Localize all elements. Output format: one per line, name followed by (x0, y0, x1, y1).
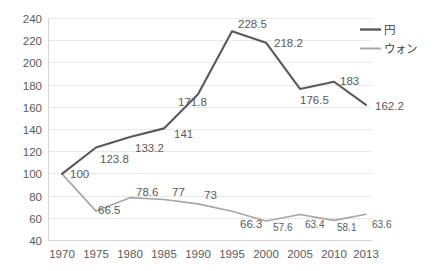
x-tick-1995: 1995 (219, 248, 245, 260)
chart-canvas: 240 220 200 180 160 140 120 100 80 60 40… (0, 0, 438, 271)
x-tick-1990: 1990 (185, 248, 211, 260)
data-label-won-2000: 57.6 (273, 222, 293, 233)
data-label-yen-1995: 228.5 (238, 18, 267, 30)
y-tick-60: 60 (29, 213, 42, 225)
x-tick-2010: 2010 (321, 248, 347, 260)
data-label-won-1985: 77 (172, 186, 185, 198)
y-tick-120: 120 (23, 146, 42, 158)
data-label-yen-2000: 218.2 (274, 37, 303, 49)
y-tick-80: 80 (29, 191, 42, 203)
x-tick-1970: 1970 (49, 248, 75, 260)
data-label-won-1980: 78.6 (136, 186, 158, 198)
legend-label-won: ウォン (384, 43, 417, 55)
x-tick-2013: 2013 (353, 248, 379, 260)
data-label-won-2005: 63.4 (305, 219, 325, 230)
y-axis-tick-labels: 240 220 200 180 160 140 120 100 80 60 40 (23, 13, 42, 247)
x-tick-1980: 1980 (117, 248, 143, 260)
x-tick-1975: 1975 (83, 248, 109, 260)
data-label-won-2013: 63.6 (372, 219, 392, 230)
x-axis-tick-labels: 1970 1975 1980 1985 1990 1995 2000 2005 … (49, 248, 379, 260)
y-tick-100: 100 (23, 168, 42, 180)
legend-label-yen: 円 (384, 24, 395, 36)
data-label-yen-1975: 123.8 (100, 153, 129, 165)
x-tick-2000: 2000 (253, 248, 279, 260)
y-tick-240: 240 (23, 13, 42, 25)
y-tick-140: 140 (23, 124, 42, 136)
data-label-won-1975: 66.5 (98, 204, 120, 216)
data-label-won-1990: 73 (204, 189, 217, 201)
data-label-yen-2005: 176.5 (300, 94, 329, 106)
y-tick-160: 160 (23, 102, 42, 114)
line-chart: 240 220 200 180 160 140 120 100 80 60 40… (0, 0, 438, 271)
data-label-yen-2010: 183 (340, 75, 359, 87)
data-label-yen-2013: 162.2 (375, 100, 404, 112)
y-tick-200: 200 (23, 57, 42, 69)
y-tick-40: 40 (29, 235, 42, 247)
data-label-won-2010: 58.1 (337, 222, 357, 233)
x-tick-2005: 2005 (287, 248, 313, 260)
data-label-won-1995: 66.3 (240, 218, 262, 230)
data-label-yen-1985: 141 (174, 128, 193, 140)
data-label-yen-1980: 133.2 (135, 142, 164, 154)
y-tick-220: 220 (23, 35, 42, 47)
data-label-yen-1970: 100 (70, 168, 89, 180)
x-tick-1985: 1985 (151, 248, 177, 260)
data-label-yen-1990: 171.8 (178, 96, 207, 108)
y-tick-180: 180 (23, 80, 42, 92)
